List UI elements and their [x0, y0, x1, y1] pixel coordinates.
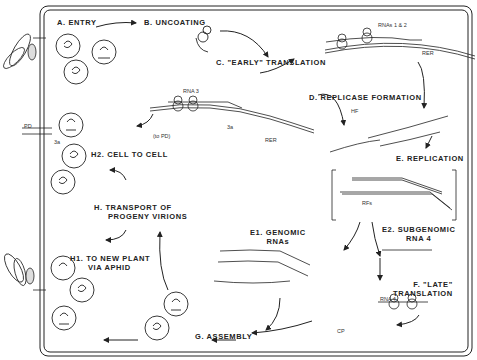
step-f-line1: F. "LATE" — [393, 280, 453, 289]
aphid-icon-top — [1, 31, 46, 71]
label-3a-pd: 3a — [54, 139, 60, 145]
virion-particles — [51, 26, 211, 340]
step-e2-subgenomic: E2. SUBGENOMIC RNA 4 — [382, 225, 455, 243]
label-rer-top: RER — [422, 50, 434, 56]
step-c-early-translation: C. "EARLY" TRANSLATION — [216, 58, 326, 67]
label-to-pd: (to PD) — [153, 133, 170, 139]
step-h1-line1: H1. TO NEW PLANT — [70, 254, 150, 263]
step-g-assembly: G. ASSEMBLY — [195, 332, 252, 341]
label-rer-mid: RER — [265, 137, 277, 143]
step-h-transport: H. TRANSPORT OF PROGENY VIRIONS — [94, 203, 187, 221]
step-f-line2: TRANSLATION — [393, 289, 453, 298]
step-h-line1: H. TRANSPORT OF — [94, 203, 187, 212]
label-cp: CP — [337, 328, 345, 334]
rf-brackets — [332, 170, 456, 220]
step-f-late-translation: F. "LATE" TRANSLATION — [393, 280, 453, 298]
step-e-replication: E. REPLICATION — [396, 154, 464, 163]
diagram-artwork — [0, 0, 477, 360]
label-rnas-1-2: RNAs 1 & 2 — [378, 22, 407, 28]
step-d-replicase-formation: D. REPLICASE FORMATION — [309, 93, 422, 102]
step-e1-line1: E1. GENOMIC — [250, 228, 306, 237]
label-rfs: RFs — [362, 200, 372, 206]
label-3a: 3a — [227, 124, 233, 130]
label-hf: HF — [351, 108, 358, 114]
step-h-line2: PROGENY VIRIONS — [94, 212, 187, 221]
label-pd: PD — [24, 123, 32, 129]
step-h2-cell-to-cell: H2. CELL TO CELL — [91, 150, 168, 159]
label-rna3: RNA 3 — [183, 88, 199, 94]
aphid-icon-bottom — [1, 251, 46, 290]
step-h1-line2: VIA APHID — [70, 263, 150, 272]
step-h1-to-new-plant: H1. TO NEW PLANT VIA APHID — [70, 254, 150, 272]
step-e2-line1: E2. SUBGENOMIC — [382, 225, 455, 234]
step-a-entry: A. ENTRY — [57, 18, 97, 27]
flow-arrows — [96, 23, 432, 341]
rna-strands — [168, 37, 452, 302]
step-e1-genomic-rnas: E1. GENOMIC RNAs — [250, 228, 306, 246]
label-rna4: RNA 4 — [380, 296, 396, 302]
step-e1-line2: RNAs — [250, 237, 306, 246]
step-e2-line2: RNA 4 — [382, 234, 455, 243]
step-b-uncoating: B. UNCOATING — [144, 18, 206, 27]
